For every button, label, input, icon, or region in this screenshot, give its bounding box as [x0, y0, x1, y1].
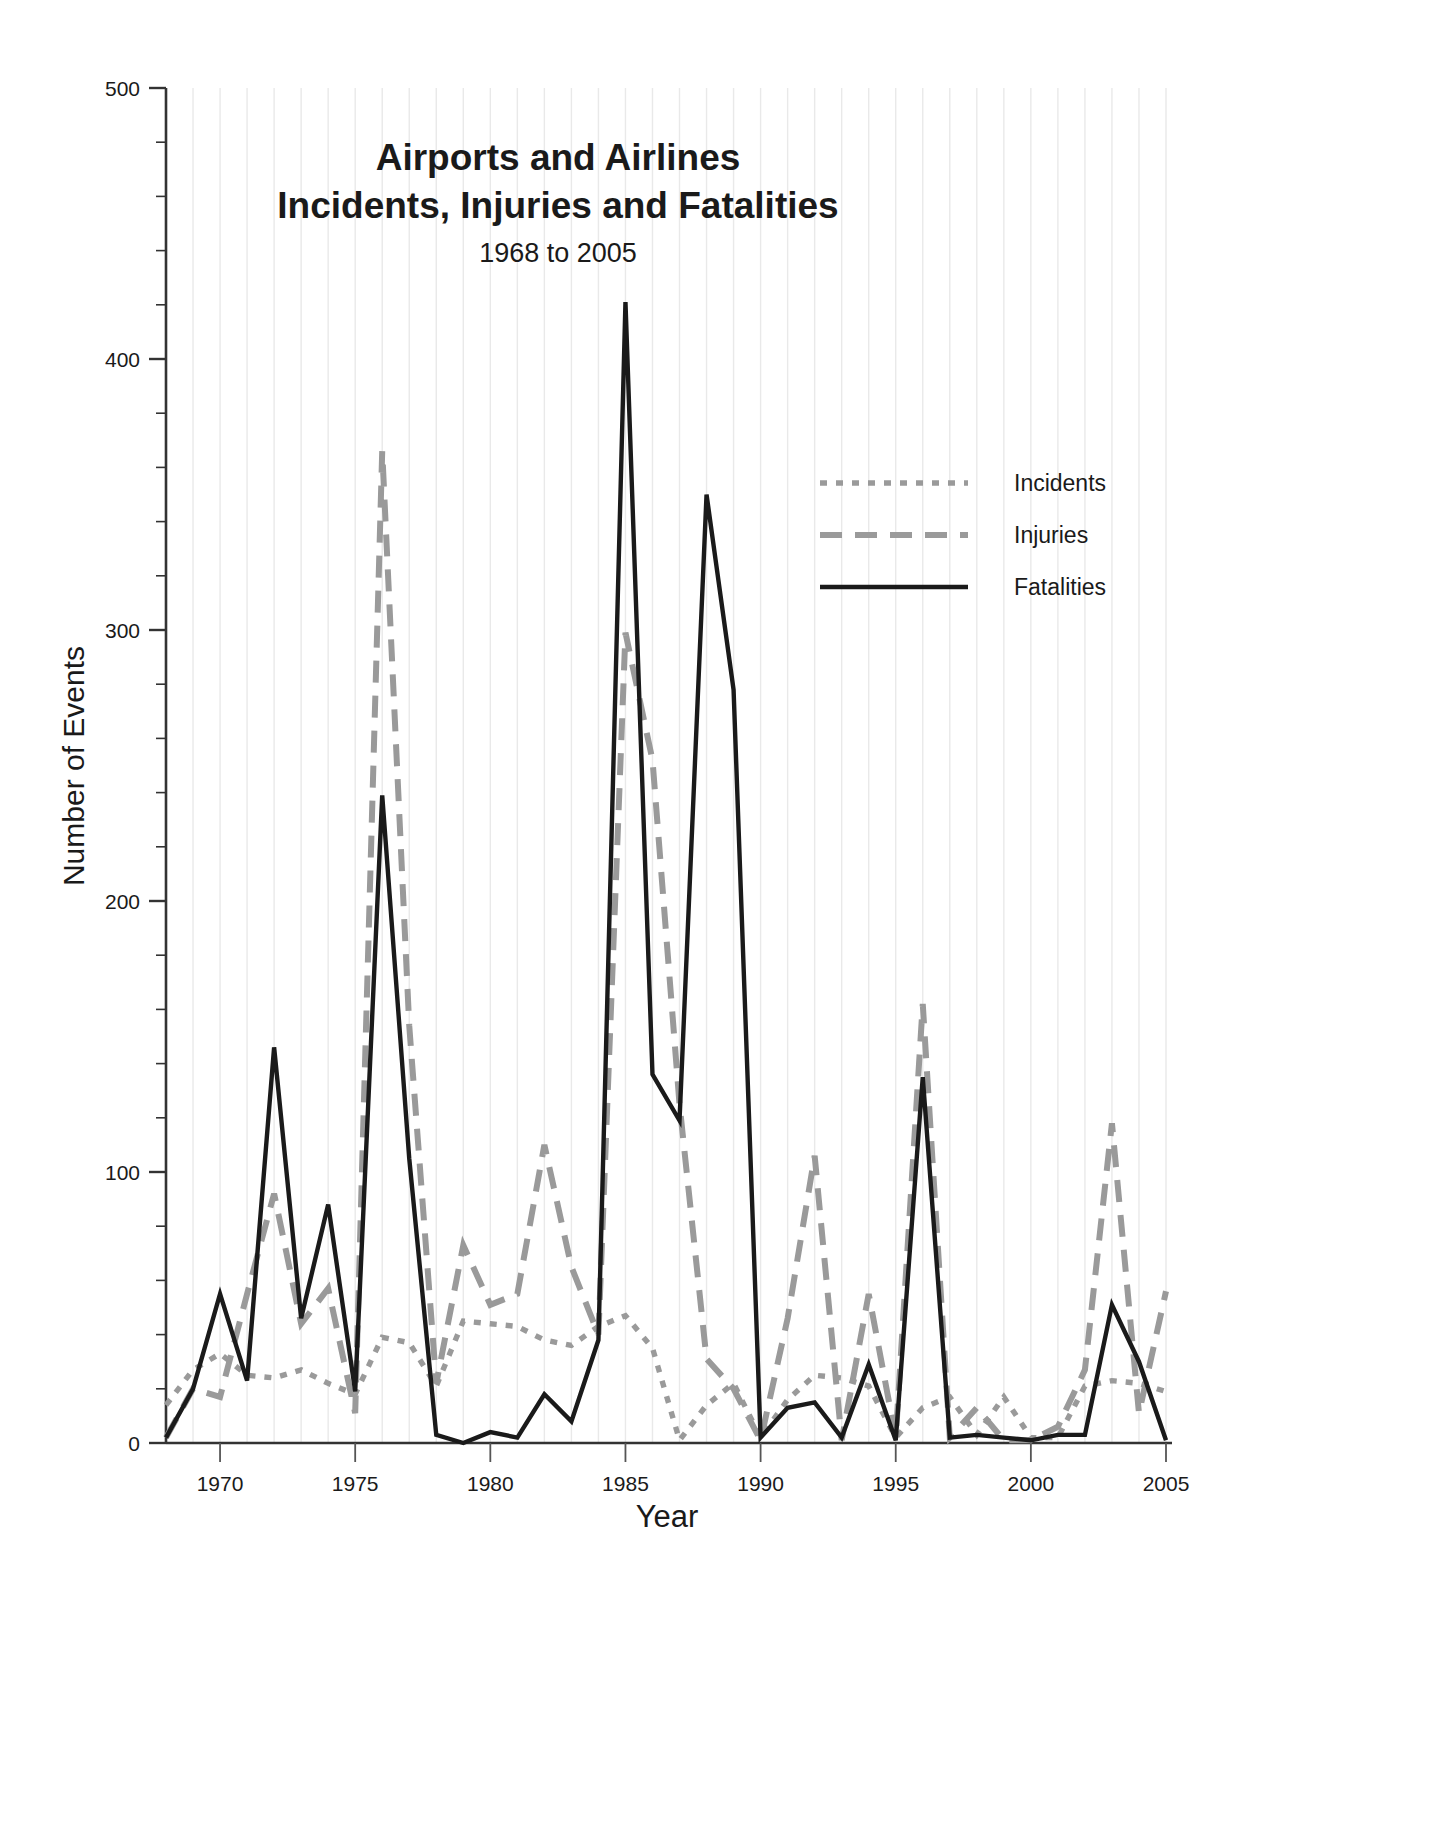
y-tick-label: 500 [105, 77, 140, 100]
x-tick-label: 1980 [467, 1472, 514, 1495]
y-tick-label: 400 [105, 348, 140, 371]
x-tick-label: 2005 [1143, 1472, 1190, 1495]
y-tick-label: 200 [105, 890, 140, 913]
chart-title-line2: Incidents, Injuries and Fatalities [277, 185, 838, 226]
x-tick-label: 1995 [872, 1472, 919, 1495]
y-axis-label: Number of Events [57, 646, 90, 886]
legend-label-injuries: Injuries [1014, 522, 1088, 548]
y-tick-label: 100 [105, 1161, 140, 1184]
x-tick-label: 2000 [1008, 1472, 1055, 1495]
x-tick-label: 1990 [737, 1472, 784, 1495]
y-tick-label: 0 [128, 1432, 140, 1455]
line-chart: 0100200300400500 19701975198019851990199… [0, 0, 1454, 1840]
legend-label-fatalities: Fatalities [1014, 574, 1106, 600]
x-tick-label: 1970 [197, 1472, 244, 1495]
chart-title-line1: Airports and Airlines [376, 137, 741, 178]
legend-label-incidents: Incidents [1014, 470, 1106, 496]
x-axis-label: Year [636, 1499, 699, 1534]
x-tick-label: 1985 [602, 1472, 649, 1495]
y-tick-label: 300 [105, 619, 140, 642]
chart-figure: 0100200300400500 19701975198019851990199… [0, 0, 1454, 1840]
chart-subtitle: 1968 to 2005 [479, 238, 637, 268]
x-tick-label: 1975 [332, 1472, 379, 1495]
figure-background [0, 0, 1454, 1840]
